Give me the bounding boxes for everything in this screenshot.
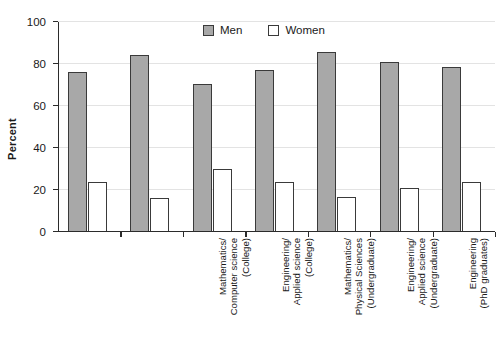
x-axis-label-line: (Undergraduate) xyxy=(427,238,438,350)
x-tick-mark xyxy=(433,232,434,237)
x-axis-label-line: (Undergraduate) xyxy=(365,238,376,350)
x-axis-label-line: Physical Sciences xyxy=(353,238,364,350)
x-tick-mark xyxy=(370,232,371,237)
empty-white-swatch xyxy=(268,25,279,36)
bar-chart-figure: Percent 020406080100 MenWomen Mathematic… xyxy=(0,0,503,352)
y-tick-label: 80 xyxy=(12,58,46,70)
legend-label: Women xyxy=(285,24,324,36)
x-axis-label: Engineering(PhD graduates) xyxy=(467,238,490,350)
x-axis-label-line: Applied science xyxy=(291,238,302,350)
x-tick-mark xyxy=(245,232,246,237)
y-tick-label: 0 xyxy=(12,226,46,238)
x-axis-label: Mathematics/Computer science(College) xyxy=(217,238,251,350)
plot-axes-frame xyxy=(58,22,495,232)
y-tick-mark xyxy=(53,147,58,148)
y-tick-mark xyxy=(53,189,58,190)
x-axis-label-line: Computer science xyxy=(229,238,240,350)
legend-item-women[interactable]: Women xyxy=(268,24,324,36)
x-axis-label-line: Engineering/ xyxy=(280,238,291,350)
plot-area xyxy=(58,22,495,232)
x-axis-label-line: Engineering/ xyxy=(405,238,416,350)
x-tick-mark xyxy=(495,232,496,237)
x-axis-label-line: (PhD graduates) xyxy=(478,238,489,350)
y-tick-mark xyxy=(53,231,58,232)
x-axis-label-line: Applied science xyxy=(416,238,427,350)
x-tick-mark xyxy=(308,232,309,237)
x-tick-mark xyxy=(120,232,121,237)
filled-gray-swatch xyxy=(203,25,214,36)
x-axis-label: Mathematics/Physical Sciences(Undergradu… xyxy=(342,238,376,350)
x-axis-label-line: Mathematics/ xyxy=(342,238,353,350)
y-tick-mark xyxy=(53,105,58,106)
x-axis-label: Engineering/Applied science(Undergraduat… xyxy=(405,238,439,350)
legend-label: Men xyxy=(220,24,242,36)
x-axis-label-line: Engineering xyxy=(467,238,478,350)
x-axis-label: Engineering/Applied science(College) xyxy=(280,238,314,350)
chart-legend: MenWomen xyxy=(203,24,325,36)
y-axis-tick-labels: 020406080100 xyxy=(12,22,46,232)
y-tick-mark xyxy=(53,63,58,64)
y-tick-label: 40 xyxy=(12,142,46,154)
y-tick-mark xyxy=(53,21,58,22)
y-tick-label: 20 xyxy=(12,184,46,196)
y-tick-label: 60 xyxy=(12,100,46,112)
x-axis-label-line: Mathematics/ xyxy=(217,238,228,350)
y-tick-label: 100 xyxy=(12,16,46,28)
x-axis-category-labels: Mathematics/Computer science(College)Eng… xyxy=(58,238,495,352)
x-tick-mark xyxy=(183,232,184,237)
legend-item-men[interactable]: Men xyxy=(203,24,242,36)
x-axis-label-line: (College) xyxy=(302,238,313,350)
x-axis-label-line: (College) xyxy=(240,238,251,350)
